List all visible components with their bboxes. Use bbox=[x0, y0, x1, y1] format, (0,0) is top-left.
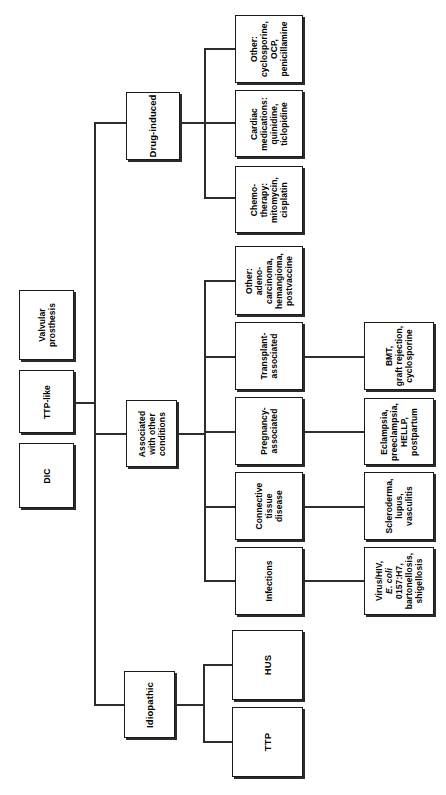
connector-pregnancy-to-leaf bbox=[303, 431, 364, 433]
connector-trunk-to-drug-induced bbox=[94, 122, 126, 124]
connector-bus-to-assoc-other bbox=[204, 280, 236, 282]
node-drug-cardiac[interactable]: Cardiacmedications:quinidine,ticlopidine bbox=[235, 90, 303, 157]
node-assoc-infections[interactable]: Infections bbox=[235, 547, 303, 615]
connector-trunk-to-idiopathic bbox=[94, 704, 125, 706]
connector-bus-to-ttp bbox=[203, 741, 233, 743]
leaf-infections-italic: E. coli bbox=[384, 568, 394, 594]
connector-trunk-to-associated bbox=[94, 433, 126, 435]
node-assoc-transplant-label: Transplant-associated bbox=[259, 333, 279, 380]
node-leaf-pregnancy-label: Eclampsia,preeclampsia,HELLP,postpartum bbox=[379, 403, 419, 461]
connector-transplant-to-leaf bbox=[303, 356, 364, 358]
node-assoc-pregnancy[interactable]: Pregnancy-associated bbox=[235, 397, 303, 465]
node-hus-label: HUS bbox=[262, 655, 273, 675]
node-ttp[interactable]: TTP bbox=[232, 707, 303, 777]
node-assoc-connective-tissue-disease[interactable]: Connectivetissuedisease bbox=[235, 472, 303, 540]
node-leaf-pregnancy-details[interactable]: Eclampsia,preeclampsia,HELLP,postpartum bbox=[364, 398, 434, 465]
node-idiopathic-label: Idiopathic bbox=[144, 682, 155, 728]
connector-bus-to-assoc-pregnancy bbox=[204, 431, 236, 433]
leaf-infections-line1: Virus/HIV, bbox=[374, 561, 384, 601]
flowchart-canvas: Drug-induced Other:cyclosporine,OCP,peni… bbox=[0, 0, 446, 795]
node-leaf-connective-details[interactable]: Scleroderma,lupus,vasculitis bbox=[364, 472, 434, 540]
leaf-infections-rest: 0157:H7,bartonellosis,shigellosis bbox=[394, 553, 424, 610]
connector-associated-to-bus bbox=[177, 433, 205, 435]
connector-bus-to-assoc-connective bbox=[204, 506, 236, 508]
root-connector-ttp-like bbox=[74, 402, 95, 404]
node-assoc-other-label: Other:adeno-carcinoma,hemangioma,postvac… bbox=[244, 253, 294, 309]
node-valvular-prosthesis[interactable]: Valvularprosthesis bbox=[19, 290, 74, 360]
connector-bus-to-drug-cardiac bbox=[204, 122, 236, 124]
node-drug-induced[interactable]: Drug-induced bbox=[126, 92, 180, 160]
node-drug-chemo-label: Chemo-therapy:mitomycin,cisplatin bbox=[249, 177, 289, 223]
connector-bus-to-drug-chemo bbox=[204, 197, 236, 199]
node-leaf-infections-details[interactable]: Virus/HIV,E. coli0157:H7,bartonellosis,s… bbox=[364, 547, 434, 615]
node-assoc-other[interactable]: Other:adeno-carcinoma,hemangioma,postvac… bbox=[235, 246, 303, 315]
idiopathic-branch-bus bbox=[203, 664, 205, 742]
node-ttp-like-label: TTP-like bbox=[41, 385, 51, 419]
connector-infections-to-leaf bbox=[303, 580, 364, 582]
connector-bus-to-hus bbox=[203, 664, 233, 666]
node-dic-label: DIC bbox=[41, 468, 51, 483]
node-valvular-prosthesis-label: Valvularprosthesis bbox=[36, 303, 56, 347]
node-idiopathic[interactable]: Idiopathic bbox=[124, 671, 175, 738]
node-hus[interactable]: HUS bbox=[232, 630, 303, 700]
connector-idiopathic-to-bus bbox=[175, 704, 204, 706]
node-drug-other-label: Other:cyclosporine,OCP,penicillamine bbox=[249, 21, 289, 77]
node-leaf-transplant-label: BMT,graft rejection,cyclosporine bbox=[384, 326, 414, 387]
node-leaf-infections-label: Virus/HIV,E. coli0157:H7,bartonellosis,s… bbox=[374, 553, 424, 610]
node-drug-other[interactable]: Other:cyclosporine,OCP,penicillamine bbox=[235, 15, 303, 83]
node-drug-induced-label: Drug-induced bbox=[147, 95, 158, 158]
node-associated-with-other-conditions[interactable]: Associatedwith otherconditions bbox=[126, 400, 177, 467]
node-assoc-connective-label: Connectivetissuedisease bbox=[254, 483, 284, 530]
node-ttp-like[interactable]: TTP-like bbox=[19, 370, 74, 433]
connector-bus-to-assoc-infections bbox=[204, 580, 236, 582]
connector-bus-to-assoc-transplant bbox=[204, 356, 236, 358]
connector-bus-to-drug-other bbox=[204, 48, 236, 50]
node-drug-chemo[interactable]: Chemo-therapy:mitomycin,cisplatin bbox=[235, 166, 303, 233]
node-assoc-pregnancy-label: Pregnancy-associated bbox=[259, 407, 279, 454]
connector-connective-to-leaf bbox=[303, 506, 364, 508]
node-leaf-transplant-details[interactable]: BMT,graft rejection,cyclosporine bbox=[364, 322, 434, 390]
node-associated-label: Associatedwith otherconditions bbox=[136, 410, 166, 456]
connector-drug-induced-to-bus bbox=[180, 122, 205, 124]
node-ttp-label: TTP bbox=[262, 733, 273, 751]
node-assoc-infections-label: Infections bbox=[264, 560, 274, 601]
node-dic[interactable]: DIC bbox=[19, 443, 74, 508]
node-drug-cardiac-label: Cardiacmedications:quinidine,ticlopidine bbox=[249, 97, 289, 151]
node-leaf-connective-label: Scleroderma,lupus,vasculitis bbox=[384, 478, 414, 533]
node-assoc-transplant[interactable]: Transplant-associated bbox=[235, 322, 303, 390]
trunk-vertical-line bbox=[94, 122, 96, 705]
